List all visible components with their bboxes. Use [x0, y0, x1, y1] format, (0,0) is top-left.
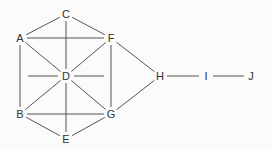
node-e: E: [62, 133, 69, 145]
node-b: B: [16, 108, 23, 120]
graph-diagram: CAFDBGEHIJ: [0, 0, 272, 149]
node-label: C: [62, 8, 70, 20]
edge-g-h: [117, 80, 155, 109]
edge-a-d: [25, 42, 60, 71]
node-i: I: [204, 70, 207, 82]
node-label: F: [108, 32, 115, 44]
node-f: F: [108, 32, 115, 44]
node-label: H: [156, 70, 164, 82]
node-label: B: [16, 108, 23, 120]
edge-c-a: [26, 17, 60, 35]
edge-d-g: [71, 81, 105, 110]
edge-d-b: [25, 80, 60, 109]
edge-f-d: [71, 43, 105, 72]
node-c: C: [62, 8, 70, 20]
node-label: J: [248, 70, 254, 82]
node-d: D: [62, 70, 70, 82]
node-label: G: [107, 108, 116, 120]
node-a: A: [16, 32, 24, 44]
node-j: J: [248, 70, 254, 82]
node-label: I: [204, 70, 207, 82]
edge-b-e: [26, 117, 60, 135]
node-label: E: [62, 133, 69, 145]
graph-canvas: CAFDBGEHIJ: [0, 0, 272, 149]
node-label: D: [62, 70, 70, 82]
node-g: G: [107, 108, 116, 120]
edge-g-e: [72, 117, 105, 135]
edge-c-f: [72, 17, 105, 34]
edges-layer: [20, 17, 244, 135]
node-label: A: [16, 32, 24, 44]
edge-f-h: [117, 42, 155, 71]
node-h: H: [156, 70, 164, 82]
